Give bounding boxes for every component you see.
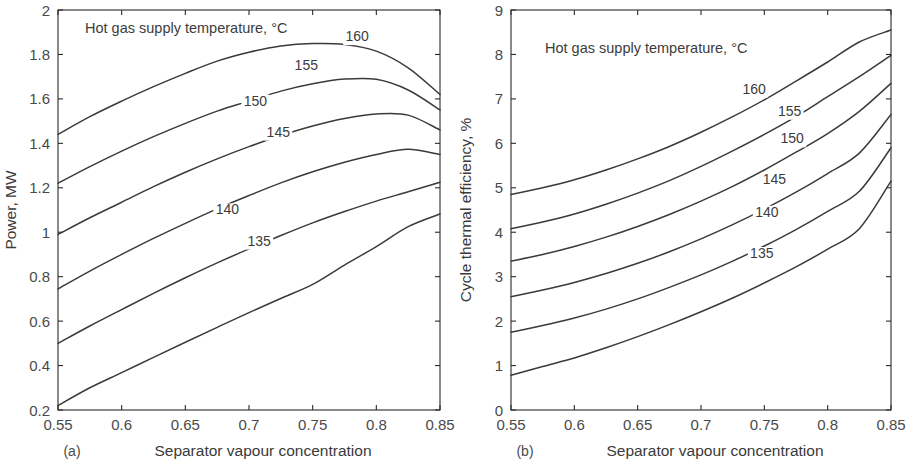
- series-label-150: 150: [244, 93, 268, 109]
- x-tick-label: 0.6: [111, 416, 132, 433]
- power-vs-separator-vapour-concentration-chart: 0.20.40.60.811.21.41.61.820.550.60.650.7…: [0, 0, 457, 459]
- y-tick-label: 6: [495, 135, 503, 152]
- x-tick-label: 0.55: [496, 416, 525, 433]
- y-tick-label: 1: [42, 224, 50, 241]
- x-tick-label: 0.6: [564, 416, 585, 433]
- x-tick-label: 0.7: [691, 416, 712, 433]
- x-axis-title: Separator vapour concentration: [154, 442, 371, 459]
- series-curve-155: [511, 55, 891, 228]
- series-label-135: 135: [248, 233, 272, 249]
- series-curve-150: [58, 113, 440, 234]
- y-tick-label: 2: [495, 313, 503, 330]
- y-tick-label: 1.4: [29, 135, 50, 152]
- x-tick-label: 0.55: [43, 416, 72, 433]
- y-tick-label: 2: [42, 2, 50, 19]
- series-curve-145: [511, 114, 891, 296]
- x-tick-label: 0.75: [750, 416, 779, 433]
- series-label-140: 140: [755, 204, 779, 220]
- plot-frame: [511, 10, 891, 410]
- y-tick-label: 3: [495, 268, 503, 285]
- series-curve-140: [511, 148, 891, 332]
- y-tick-label: 7: [495, 90, 503, 107]
- x-tick-label: 0.65: [171, 416, 200, 433]
- x-tick-label: 0.75: [298, 416, 327, 433]
- y-axis-title: Cycle thermal efficiency, %: [457, 117, 474, 302]
- y-tick-label: 4: [495, 224, 503, 241]
- x-tick-label: 0.8: [366, 416, 387, 433]
- x-axis-title: Separator vapour concentration: [606, 442, 823, 459]
- chart-panel-b: 01234567890.550.60.650.70.750.80.8516015…: [457, 0, 914, 459]
- series-curve-140: [58, 182, 440, 343]
- y-tick-label: 1: [495, 357, 503, 374]
- y-tick-label: 0.6: [29, 313, 50, 330]
- x-tick-label: 0.85: [425, 416, 454, 433]
- panel-caption: (a): [63, 443, 80, 459]
- series-curve-150: [511, 83, 891, 261]
- plot-title: Hot gas supply temperature, °C: [545, 40, 747, 56]
- series-label-145: 145: [763, 171, 787, 187]
- y-tick-label: 1.8: [29, 46, 50, 63]
- series-label-160: 160: [346, 28, 370, 44]
- plot-frame: [58, 10, 440, 410]
- y-tick-label: 5: [495, 179, 503, 196]
- y-tick-label: 0.4: [29, 357, 50, 374]
- y-tick-label: 0.8: [29, 268, 50, 285]
- x-tick-label: 0.85: [876, 416, 905, 433]
- series-curve-160: [58, 43, 440, 134]
- series-label-140: 140: [216, 201, 240, 217]
- panel-caption: (b): [516, 443, 533, 459]
- series-label-160: 160: [743, 81, 767, 97]
- y-axis-title: Power, MW: [2, 170, 19, 250]
- series-label-145: 145: [267, 124, 291, 140]
- y-tick-label: 1.2: [29, 179, 50, 196]
- figure-container: 0.20.40.60.811.21.41.61.820.550.60.650.7…: [0, 0, 915, 459]
- y-tick-label: 9: [495, 2, 503, 19]
- x-tick-label: 0.7: [239, 416, 260, 433]
- series-label-155: 155: [295, 57, 319, 73]
- chart-panel-a: 0.20.40.60.811.21.41.61.820.550.60.650.7…: [0, 0, 457, 459]
- series-label-150: 150: [781, 130, 805, 146]
- series-label-155: 155: [778, 103, 802, 119]
- x-tick-label: 0.65: [623, 416, 652, 433]
- series-curve-145: [58, 149, 440, 289]
- cycle-thermal-efficiency-vs-separator-vapour-concentration-chart: 01234567890.550.60.650.70.750.80.8516015…: [457, 0, 915, 459]
- plot-title: Hot gas supply temperature, °C: [85, 20, 287, 36]
- series-curve-135: [511, 181, 891, 375]
- y-tick-label: 1.6: [29, 90, 50, 107]
- x-tick-label: 0.8: [817, 416, 838, 433]
- y-tick-label: 8: [495, 46, 503, 63]
- series-label-135: 135: [750, 245, 774, 261]
